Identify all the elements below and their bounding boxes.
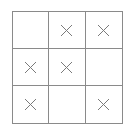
board-cell-r1-c2[interactable] (86, 49, 122, 86)
board-cell-r1-c1[interactable] (49, 49, 85, 86)
x-mark-icon (24, 98, 37, 111)
board-cell-r2-c2[interactable] (86, 86, 122, 123)
x-mark-icon (24, 61, 37, 74)
board-cell-r2-c0[interactable] (13, 86, 49, 123)
x-mark-icon (60, 61, 73, 74)
board-cell-r0-c1[interactable] (49, 12, 85, 49)
board-cell-r1-c0[interactable] (13, 49, 49, 86)
x-mark-icon (60, 24, 73, 37)
x-mark-icon (97, 24, 110, 37)
board-cell-r0-c0[interactable] (13, 12, 49, 49)
game-board (12, 11, 123, 124)
x-mark-icon (97, 98, 110, 111)
board-cell-r2-c1[interactable] (49, 86, 85, 123)
board-cell-r0-c2[interactable] (86, 12, 122, 49)
